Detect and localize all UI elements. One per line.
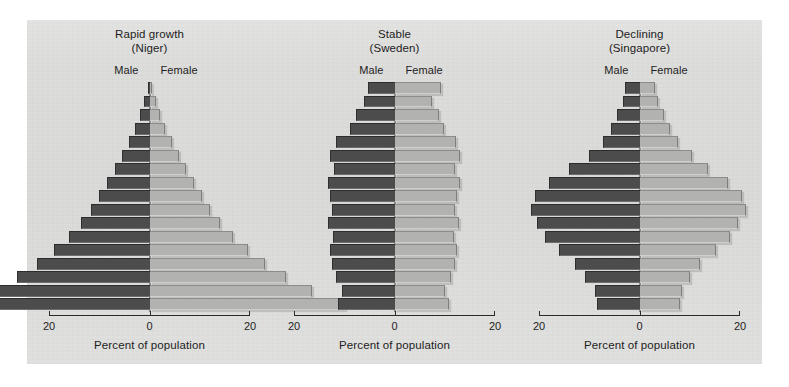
x-tick-label-center: 0 [383,320,407,332]
pyramid-row [294,150,495,162]
pyramid-row [539,82,740,94]
pyramid-row [294,271,495,283]
female-bar [395,204,455,216]
male-bar [54,244,149,256]
female-bar [395,82,441,94]
pyramid-row [49,204,250,216]
female-bar [640,190,743,202]
female-bar [395,217,459,229]
x-axis-title: Percent of population [27,339,272,351]
x-axis-line [294,315,495,316]
female-bar [150,271,287,283]
male-bar [537,217,640,229]
female-bar [640,258,700,270]
male-bar [531,204,640,216]
pyramid-row [49,244,250,256]
female-bar [150,204,210,216]
pyramid-row [539,123,740,135]
male-bar [0,298,150,310]
female-bar [150,258,266,270]
pyramid-plot-area [539,82,740,312]
female-bar [395,231,454,243]
female-bar [150,123,165,135]
pyramid-row [294,190,495,202]
male-bar [129,136,149,148]
x-axis-line [539,315,740,316]
pyramid-row [49,163,250,175]
female-bar [150,82,153,94]
male-bar [333,231,394,243]
male-bar [17,271,150,283]
male-bar [99,190,149,202]
male-bar [595,285,639,297]
female-bar [150,217,220,229]
male-bar [330,244,394,256]
x-tick-label-left: 20 [37,320,61,332]
x-axis-title: Percent of population [517,339,762,351]
female-bar [640,136,678,148]
pyramid-row [294,177,495,189]
female-bar [640,163,708,175]
pyramid-plot-area [294,82,495,312]
pyramid-row [294,298,495,310]
x-tick-label-center: 0 [628,320,652,332]
male-bar [545,231,639,243]
male-bar [37,258,150,270]
female-bar [640,231,730,243]
pyramid-row [539,298,740,310]
female-bar [395,285,445,297]
pyramid-row [294,285,495,297]
male-bar [342,285,394,297]
female-bar [150,177,194,189]
female-bar [150,190,202,202]
pyramid-row [294,82,495,94]
pyramid-row [49,150,250,162]
pyramid-row [49,271,250,283]
female-bar [640,177,728,189]
pyramid-row [294,96,495,108]
pyramid-row [294,217,495,229]
male-legend-label: Male [604,64,628,76]
pyramid-row [539,190,740,202]
x-tick-left [294,311,295,316]
female-bar [395,123,444,135]
pyramid-row [294,204,495,216]
x-tick-label-left: 20 [282,320,306,332]
pyramid-plot-area [49,82,250,312]
x-tick-right [739,311,740,316]
male-bar [330,190,394,202]
male-bar [356,109,394,121]
female-bar [640,109,664,121]
female-bar [640,204,747,216]
male-bar [334,163,394,175]
female-bar [395,136,456,148]
pyramid-panel-singapore: Declining (Singapore) Male Female 20 0 2… [517,20,762,364]
male-bar [603,136,639,148]
x-tick-right [494,311,495,316]
x-tick-left [49,311,50,316]
female-bar [640,217,738,229]
male-legend-label: Male [114,64,138,76]
male-bar [597,298,639,310]
pyramid-row [49,136,250,148]
female-bar [640,123,670,135]
x-tick-center [640,311,641,316]
x-tick-center [395,311,396,316]
pyramid-row [539,96,740,108]
female-bar [395,244,457,256]
pyramid-row [49,258,250,270]
female-bar [150,231,233,243]
pyramid-row [539,285,740,297]
female-legend-label: Female [651,64,688,76]
male-bar [332,204,394,216]
x-tick-label-center: 0 [138,320,162,332]
male-bar [135,123,149,135]
male-bar [585,271,639,283]
x-tick-left [539,311,540,316]
pyramid-row [49,82,250,94]
panel-subtitle: (Sweden) [272,41,517,55]
pyramid-row [539,109,740,121]
female-bar [395,298,449,310]
male-bar [559,244,639,256]
male-bar [336,136,394,148]
